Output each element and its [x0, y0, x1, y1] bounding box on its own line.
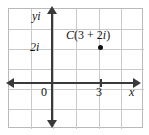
- gridline-horizontal: [9, 89, 144, 90]
- grid-box: [8, 8, 143, 128]
- origin-label: 0: [41, 86, 47, 98]
- x-axis-tick-label-3: 3: [96, 86, 102, 98]
- point-label-operator: +: [84, 28, 97, 42]
- plotted-point-c: [98, 45, 103, 50]
- x-axis-label: x: [129, 86, 134, 98]
- point-label-name: C: [66, 28, 74, 42]
- y-axis-label: yi: [32, 10, 41, 22]
- point-label-close: ): [106, 28, 110, 42]
- x-axis-left-arrow-icon: [6, 78, 14, 88]
- y-axis-tick-label-2i: 2i: [30, 41, 39, 53]
- point-label: C(3 + 2i): [66, 29, 110, 41]
- gridline-horizontal: [9, 69, 144, 70]
- gridline-horizontal: [9, 109, 144, 110]
- y-axis-line: [51, 10, 53, 123]
- y-axis-down-arrow-icon: [47, 120, 57, 128]
- y-axis-up-arrow-icon: [47, 6, 57, 14]
- x-axis-line: [11, 82, 135, 84]
- complex-plane-figure: yi 2i 0 3 x C(3 + 2i): [0, 0, 149, 135]
